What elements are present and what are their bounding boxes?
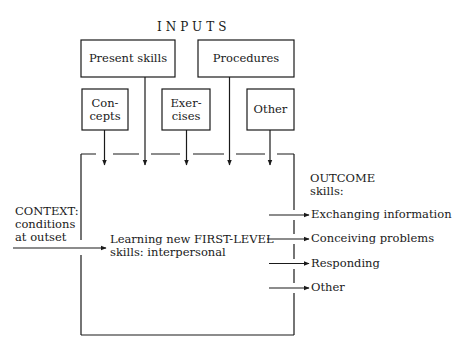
outcome-item-exchanging-information: Exchanging information	[311, 208, 452, 221]
concepts-label: Con- cepts	[82, 89, 128, 130]
procedures-label: Procedures	[198, 40, 294, 77]
concepts-label-line2: cepts	[89, 110, 120, 123]
other-input-label: Other	[247, 89, 294, 130]
outcome-item-other: Other	[311, 281, 345, 294]
inputs-title: INPUTS	[157, 21, 230, 34]
context-line-3: at outset	[15, 231, 66, 244]
present-skills-label: Present skills	[81, 40, 175, 77]
exercises-label-line1: Exer-	[170, 97, 201, 110]
exercises-label-line2: cises	[172, 110, 201, 123]
outcome-item-conceiving-problems: Conceiving problems	[311, 232, 434, 245]
exercises-label: Exer- cises	[162, 89, 210, 130]
outcome-item-responding: Responding	[311, 257, 380, 270]
concepts-label-line1: Con-	[91, 97, 118, 110]
outcome-subheading: skills:	[310, 185, 344, 198]
process-line-2: skills: interpersonal	[110, 246, 226, 259]
